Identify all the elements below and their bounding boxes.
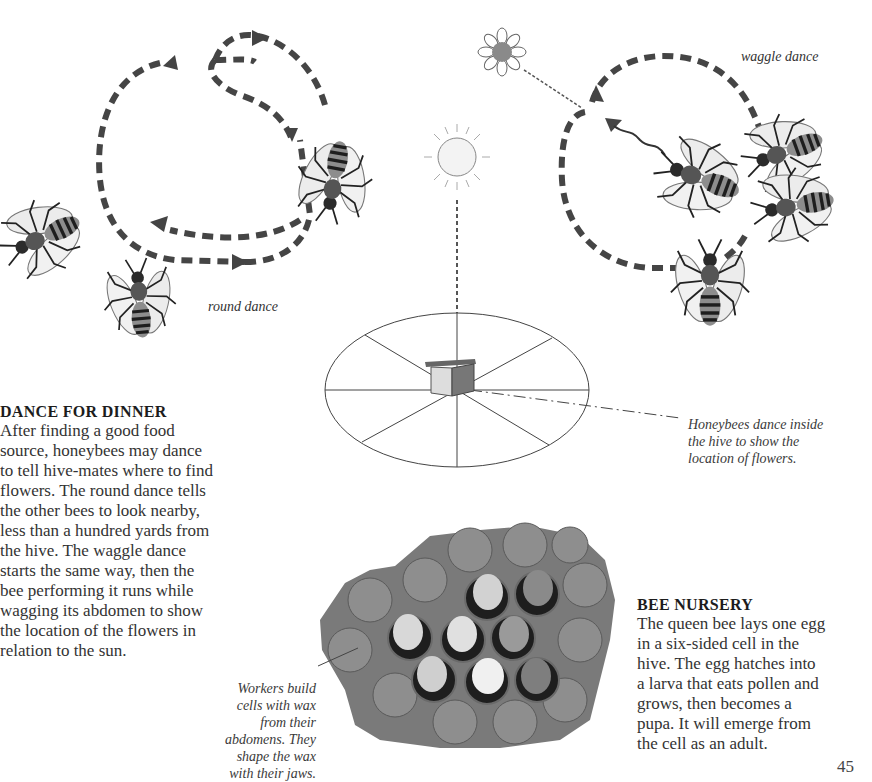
section-heading: DANCE FOR DINNER [0,403,300,421]
honeycomb-photo [320,523,615,748]
round-dance-label: round dance [208,299,278,315]
hive-caption: Honeybees dance inside the hive to show … [688,416,823,467]
bee-nursery-section: BEE NURSERY The queen bee lays one egg i… [637,596,872,754]
section-body: The queen bee lays one egg in a six-side… [637,614,872,754]
bee-icon [98,256,180,341]
bee-icon [643,124,752,231]
page-number: 45 [837,757,854,777]
flower-icon [478,28,526,76]
flower-direction-line [524,70,582,108]
hive-icon [425,359,476,396]
section-heading: BEE NURSERY [637,596,872,614]
waggle-dance-label: waggle dance [741,49,818,65]
wax-caption: Workers build cells with wax from their … [180,680,316,782]
bee-icon [0,185,96,291]
waggle-dance-diagram [562,56,760,268]
sun-icon [424,124,490,313]
bee-icon [669,239,751,325]
dance-for-dinner-section: DANCE FOR DINNER After finding a good fo… [0,403,300,661]
hive-diagram [325,313,680,467]
round-dance-diagram [99,30,325,270]
section-body: After finding a good food source, honeyb… [0,421,300,661]
